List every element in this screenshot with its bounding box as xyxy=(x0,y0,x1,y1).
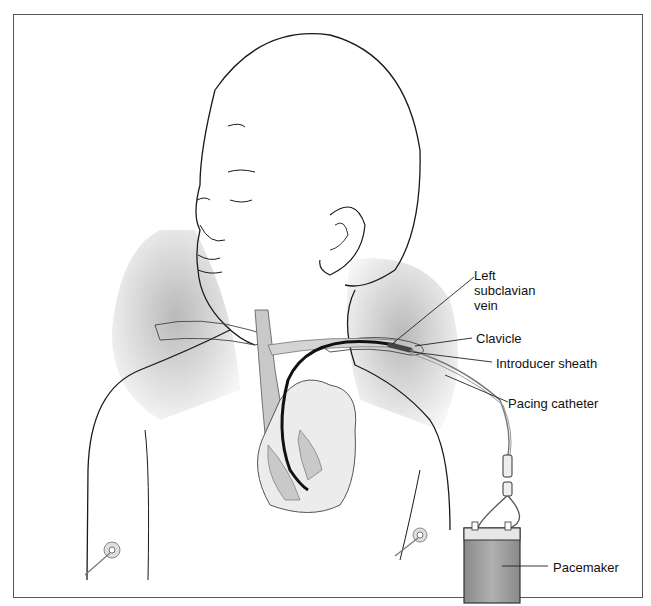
label-introducer-sheath: Introducer sheath xyxy=(496,356,597,371)
label-clavicle: Clavicle xyxy=(476,331,522,346)
label-pacing-catheter: Pacing catheter xyxy=(508,396,598,411)
label-pacemaker: Pacemaker xyxy=(553,560,619,575)
shadow-left xyxy=(112,230,240,420)
label-left-subclavian-vein: Left subclavian vein xyxy=(474,268,535,313)
pacemaker-illustration xyxy=(0,0,651,606)
head-outline xyxy=(215,34,420,286)
